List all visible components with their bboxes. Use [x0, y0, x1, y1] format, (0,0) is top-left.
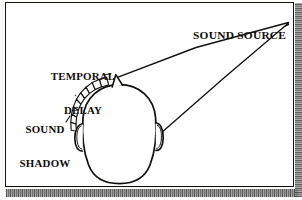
label-sound-source-line-1: SOUND SOURCE	[193, 30, 286, 42]
scan-artifact-right	[295, 3, 302, 197]
label-sound-source: SOUND SOURCE	[193, 6, 286, 65]
scan-artifact-bottom	[6, 189, 298, 197]
figure-root: SOUND SOURCE TEMPORAL DELAY SOUND SHADOW	[0, 0, 302, 200]
label-sound-shadow-line-2: SHADOW	[10, 158, 80, 169]
scan-artifact-left	[0, 0, 4, 200]
label-temporal-delay-line-1: TEMPORAL	[38, 71, 128, 82]
label-sound-shadow: SOUND SHADOW	[10, 101, 80, 192]
label-sound-shadow-line-1: SOUND	[10, 124, 80, 135]
